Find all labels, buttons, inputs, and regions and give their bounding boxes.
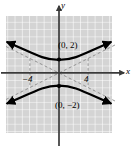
- y-axis-label: y: [61, 1, 65, 10]
- vertex-bottom-dot: [57, 84, 61, 88]
- vertex-bottom-label: (0, −2): [55, 101, 80, 110]
- plot-canvas: [0, 0, 133, 147]
- x-tick-label-neg4: −4: [22, 75, 33, 84]
- hyperbola-graph-figure: (0, 2) (0, −2) −4 4 x y: [0, 0, 133, 147]
- vertex-top-dot: [57, 57, 61, 61]
- vertex-top-label: (0, 2): [58, 41, 78, 50]
- x-tick-label-pos4: 4: [84, 75, 89, 84]
- x-axis-label: x: [126, 67, 130, 76]
